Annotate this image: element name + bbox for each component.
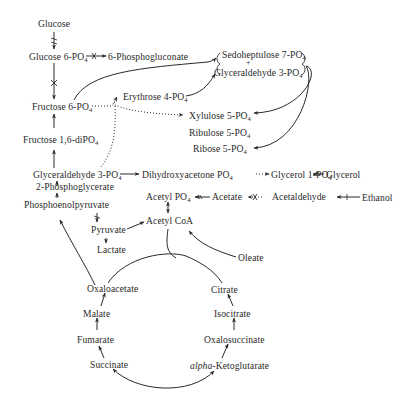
node-ribose-5-phosphate: Ribose 5-PO4 (193, 143, 247, 154)
node-acetyl-coa: Acetyl CoA (146, 215, 193, 226)
node-malate: Malate (83, 308, 110, 319)
node-glycerol-1-phosphate: Glycerol 1-PO4 (271, 169, 332, 180)
node-glyceraldehyde-3-phosphate: Glyceraldehyde 3-PO4 (33, 169, 122, 180)
arrow-akg-oxalosuccinate (222, 344, 228, 358)
node-erythrose-4-phosphate: Erythrose 4-PO4 (123, 91, 188, 102)
node-xylulose-5-phosphate: Xylulose 5-PO4 (189, 110, 251, 121)
arrow-succinate-fumarate (99, 346, 104, 358)
dotted-to-ga3p (100, 106, 115, 168)
arrow-malate-oaa (101, 293, 105, 306)
node-succinate: Succinate (90, 359, 128, 370)
plus-sign: + (246, 59, 251, 67)
node-acetyl-phosphate: Acetyl PO4 (146, 191, 191, 202)
arrow-pyruvate-acetylcoa (127, 222, 144, 229)
tca-arc-bottom (113, 369, 214, 388)
tca-arc-top (108, 254, 222, 283)
dotted-to-erythrose (113, 97, 117, 104)
node-ethanol: Ethanol (362, 192, 393, 203)
node-oleate: Oleate (238, 252, 264, 263)
node-oxalosuccinate: Oxalosuccinate (204, 334, 265, 345)
dotted-to-xylulose (115, 105, 183, 115)
node-alpha-ketoglutarate: alpha-Ketoglutarate (190, 360, 269, 371)
node-citrate: Citrate (211, 284, 238, 295)
node-dihydroxyacetone-phosphate: Dihydroxyacetone PO4 (142, 169, 233, 180)
node-2-phosphoglycerate: 2-Phosphoglycerate (36, 181, 114, 192)
node-6-phosphogluconate: 6-Phosphogluconate (108, 51, 188, 62)
arrow-oleate-acetylcoa (189, 231, 236, 257)
metabolic-pathway-diagram: Glucose Glucose 6-PO4 6-Phosphogluconate… (0, 0, 409, 414)
arrow-erythrose-ga3p (186, 74, 215, 96)
node-glyceraldehyde-3-phosphate-top: Glyceraldehyde 3-PO4 (214, 67, 303, 78)
arrow-oaa-pep (60, 220, 95, 285)
node-phosphoenolpyruvate: Phosphoenolpyruvate (24, 199, 109, 210)
node-acetate: Acetate (212, 191, 242, 202)
node-fructose-6-phosphate: Fructose 6-PO4 (32, 101, 92, 112)
node-isocitrate: Isocitrate (214, 308, 251, 319)
dotted-f6p-branch (92, 98, 118, 106)
node-acetaldehyde: Acetaldehyde (272, 191, 326, 202)
node-fructose-1-6-diphosphate: Fructose 1,6-diPO4 (23, 134, 98, 145)
node-glycerol: Glycerol (326, 169, 360, 180)
node-fumarate: Fumarate (77, 334, 114, 345)
node-glucose-6-phosphate: Glucose 6-PO4 (29, 51, 88, 62)
node-lactate: Lactate (97, 244, 126, 255)
node-glucose: Glucose (38, 18, 70, 29)
node-sedoheptulose-7-phosphate: Sedoheptulose 7-PO4 (222, 49, 306, 60)
node-oxaloacetate: Oxaloacetate (87, 283, 138, 294)
node-pyruvate: Pyruvate (91, 224, 126, 235)
node-ribulose-5-phosphate: Ribulose 5-PO4 (189, 127, 250, 138)
arrow-isocitrate-citrate (228, 294, 233, 306)
